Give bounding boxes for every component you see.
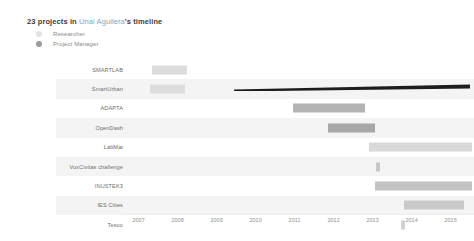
timeline-row[interactable]: SmartUrban [56, 79, 474, 98]
legend-item-project-manager[interactable]: Project Manager [36, 39, 99, 49]
timeline-row[interactable]: VoxCivitas challenge [56, 157, 474, 176]
project-bar[interactable] [369, 143, 472, 152]
page-title: 23 projects in Unai Aguilera's timeline [27, 17, 162, 26]
row-plot-area [123, 157, 474, 176]
row-label: INUSTEK3 [95, 183, 123, 189]
person-name-link[interactable]: Unai Aguilera [79, 17, 125, 26]
row-plot-area [123, 99, 474, 118]
timeline-row[interactable]: IES Cities [56, 196, 474, 215]
legend-item-researcher[interactable]: Researcher [36, 29, 99, 39]
project-count-text: 23 projects in [27, 17, 79, 26]
row-label: SmartUrban [92, 86, 123, 92]
project-bar[interactable] [293, 104, 365, 113]
timeline-row[interactable]: INUSTEK3 [56, 176, 474, 195]
project-bar[interactable] [328, 123, 375, 132]
row-plot-area [123, 196, 474, 215]
row-label: OpenDash [95, 125, 123, 131]
legend-label-researcher: Researcher [53, 31, 85, 37]
row-plot-area [123, 118, 474, 137]
timeline-row[interactable]: OpenDash [56, 118, 474, 137]
axis-tick-label: 2009 [210, 217, 222, 223]
row-plot-area [123, 176, 474, 195]
row-plot-area [123, 138, 474, 157]
x-axis: 200720082009201020112012201320142015 [56, 214, 474, 228]
circle-icon [36, 31, 42, 37]
axis-tick-label: 2007 [132, 217, 144, 223]
row-plot-area [123, 79, 474, 98]
row-label: SMARTLAB [92, 67, 123, 73]
row-label: ADAPTA [100, 105, 123, 111]
axis-tick-label: 2008 [171, 217, 183, 223]
axis-tick-label: 2014 [405, 217, 417, 223]
axis-tick-label: 2010 [249, 217, 261, 223]
axis-tick-label: 2011 [289, 217, 301, 223]
timeline-row[interactable]: LabMat [56, 138, 474, 157]
project-bar[interactable] [376, 162, 380, 171]
row-label: IES Cities [97, 202, 123, 208]
axis-tick-label: 2012 [327, 217, 339, 223]
project-bar[interactable] [152, 65, 187, 74]
title-suffix: 's timeline [125, 17, 162, 26]
axis-line [123, 214, 474, 215]
gantt-chart[interactable]: SMARTLABSmartUrbanADAPTAOpenDashLabMatVo… [56, 60, 474, 215]
row-plot-area [123, 60, 474, 79]
legend: Researcher Project Manager [36, 29, 99, 49]
axis-tick-label: 2013 [366, 217, 378, 223]
timeline-row[interactable]: SMARTLAB [56, 60, 474, 79]
timeline-row[interactable]: ADAPTA [56, 99, 474, 118]
project-bar[interactable] [404, 201, 464, 210]
circle-filled-icon [36, 41, 42, 47]
row-label: LabMat [104, 144, 123, 150]
axis-tick-label: 2015 [444, 217, 456, 223]
project-bar[interactable] [150, 85, 185, 94]
row-label: VoxCivitas challenge [69, 164, 123, 170]
legend-label-project-manager: Project Manager [53, 41, 99, 47]
project-bar[interactable] [375, 182, 473, 191]
